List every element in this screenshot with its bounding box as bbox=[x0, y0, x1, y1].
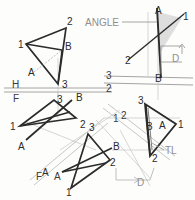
fold-label-two-diag: 2 bbox=[121, 110, 127, 121]
vertex-label-front-1: 1 bbox=[10, 121, 16, 132]
vertex-label-aux1-3: 3 bbox=[89, 122, 95, 133]
point-label-edge-a: A bbox=[155, 5, 162, 16]
vertex-label-aux2-3: 3 bbox=[138, 95, 144, 106]
vertex-label-front-2: 2 bbox=[80, 119, 86, 130]
fold-label-f: F bbox=[13, 93, 19, 104]
callout-tl-label: TL bbox=[165, 145, 177, 156]
fold-label-a-diag: A bbox=[54, 171, 61, 182]
point-label-top-b: B bbox=[65, 41, 72, 52]
point-label-edge-b: B bbox=[155, 73, 162, 84]
vertex-label-front-3: 3 bbox=[57, 94, 63, 105]
point-label-aux1-b: B bbox=[113, 141, 120, 152]
fold-label-three: 3 bbox=[106, 70, 112, 81]
fold-label-h: H bbox=[12, 79, 19, 90]
vertex-label-top-2: 2 bbox=[67, 16, 73, 27]
geometry-sketch-canvas: ANGLE TL D D H F 3 2 1 2 F A 1 2 3 A B 1… bbox=[0, 0, 195, 200]
vertex-label-edge-2: 2 bbox=[125, 55, 131, 66]
vertex-label-aux1-2: 2 bbox=[110, 157, 116, 168]
point-label-front-b: B bbox=[76, 92, 83, 103]
vertex-label-top-1: 1 bbox=[18, 39, 24, 50]
point-label-aux2-b: B bbox=[146, 121, 153, 132]
point-label-aux2-a: A bbox=[159, 120, 166, 131]
view-front-view bbox=[20, 100, 76, 140]
vertex-label-aux2-2: 2 bbox=[152, 153, 158, 164]
view-auxiliary-view-1 bbox=[62, 134, 112, 188]
vertex-label-aux2-1: 1 bbox=[178, 119, 184, 130]
point-label-top-a: A bbox=[28, 67, 35, 78]
dimension-d-top-label: D bbox=[172, 53, 179, 64]
vertex-label-top-3: 3 bbox=[62, 79, 68, 90]
fold-label-two: 2 bbox=[106, 83, 112, 94]
fold-label-one-diag: 1 bbox=[113, 113, 119, 124]
vertex-label-edge-1: 1 bbox=[183, 11, 189, 22]
vertex-label-aux1-1: 1 bbox=[66, 187, 72, 198]
point-label-front-a: A bbox=[18, 141, 25, 152]
dimension-d-bottom bbox=[116, 168, 154, 183]
dimension-d-bottom-label: D bbox=[137, 177, 144, 188]
point-label-aux1-a: A bbox=[42, 167, 49, 178]
drawing-sheet: ANGLE TL D D H F 3 2 1 2 F A 1 2 3 A B 1… bbox=[0, 0, 195, 200]
fold-line-three-two bbox=[104, 76, 193, 85]
callout-angle-label: ANGLE bbox=[85, 17, 119, 28]
